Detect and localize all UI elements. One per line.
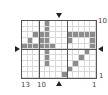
bottom-marker-up-arrow-icon bbox=[56, 81, 62, 86]
right-label-10: 10 bbox=[98, 17, 107, 25]
bottom-label-13: 13 bbox=[21, 81, 30, 89]
thick-divider-horizontal bbox=[22, 49, 96, 50]
right-label-1: 1 bbox=[99, 72, 103, 80]
grid-cell[interactable] bbox=[90, 72, 96, 78]
top-marker-down-arrow-icon bbox=[56, 13, 62, 18]
bottom-label-10: 10 bbox=[37, 81, 46, 89]
bottom-label-1: 1 bbox=[92, 81, 96, 89]
left-marker-right-arrow-icon bbox=[15, 46, 20, 52]
right-marker-left-arrow-icon bbox=[98, 46, 103, 52]
puzzle-grid[interactable] bbox=[21, 20, 97, 79]
